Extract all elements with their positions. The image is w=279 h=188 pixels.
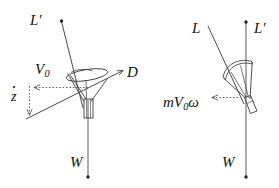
left-velocity-components <box>30 86 89 115</box>
label-left-D-base: D <box>127 64 138 80</box>
label-right-L: L <box>192 21 200 36</box>
label-left-L-prime-mark: ′ <box>38 12 41 28</box>
label-right-W: W <box>222 155 235 170</box>
label-left-V0-sub: 0 <box>44 68 49 79</box>
label-right-L-base: L <box>192 20 200 36</box>
label-left-W-base: W <box>70 154 83 170</box>
label-left-V0: V0 <box>35 62 49 79</box>
figure-drawing <box>0 0 279 188</box>
left-rotor-body <box>65 66 108 118</box>
physics-figure: L′ V0 z D W L L′ mV0ω W <box>0 0 279 188</box>
right-rotor-body <box>223 60 257 113</box>
z-dot-accent-icon <box>13 86 15 88</box>
label-right-mv-omega: ω <box>188 94 199 110</box>
label-right-W-base: W <box>222 154 235 170</box>
label-left-L-prime: L′ <box>30 13 42 28</box>
label-left-z-dot-base: z <box>11 89 16 104</box>
label-left-z-dot: z <box>11 90 16 104</box>
label-right-L-prime: L′ <box>254 21 266 36</box>
label-left-D: D <box>127 65 138 80</box>
label-right-gyroscopic-force: mV0ω <box>163 95 199 112</box>
left-weight-vector <box>86 100 89 179</box>
label-left-V0-base: V <box>35 61 44 77</box>
label-right-mv-base: mV <box>163 94 183 110</box>
label-left-W: W <box>70 155 83 170</box>
label-right-L-prime-mark: ′ <box>262 20 265 36</box>
